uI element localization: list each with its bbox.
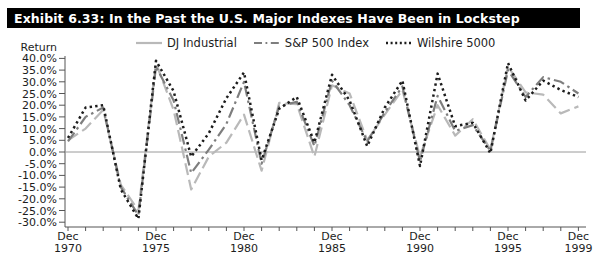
x-tick-label-year: 1975	[142, 242, 170, 255]
exhibit-frame: Exhibit 6.33: In the Past the U.S. Major…	[0, 0, 607, 270]
legend-swatch-icon	[254, 38, 280, 48]
legend-item-s-p-500-index: S&P 500 Index	[254, 36, 369, 50]
x-tick-label-year: 1999	[564, 242, 592, 255]
legend-swatch-icon	[136, 38, 162, 48]
series-line-dj-industrial	[68, 63, 578, 210]
series-line-wilshire-5000	[68, 61, 578, 219]
legend-label: Wilshire 5000	[417, 36, 495, 50]
x-tick-label-year: 1980	[230, 242, 258, 255]
x-tick-label-year: 1985	[318, 242, 346, 255]
x-tick-label-year: 1970	[54, 242, 82, 255]
legend-label: DJ Industrial	[167, 36, 237, 50]
y-tick-label: -30.0%	[18, 216, 57, 229]
legend-swatch-icon	[386, 38, 412, 48]
x-tick-label-year: 1995	[494, 242, 522, 255]
x-tick-label-year: 1990	[406, 242, 434, 255]
legend-item-dj-industrial: DJ Industrial	[136, 36, 237, 50]
legend-label: S&P 500 Index	[285, 36, 369, 50]
chart-legend: DJ IndustrialS&P 500 IndexWilshire 5000	[136, 36, 495, 50]
legend-item-wilshire-5000: Wilshire 5000	[386, 36, 495, 50]
